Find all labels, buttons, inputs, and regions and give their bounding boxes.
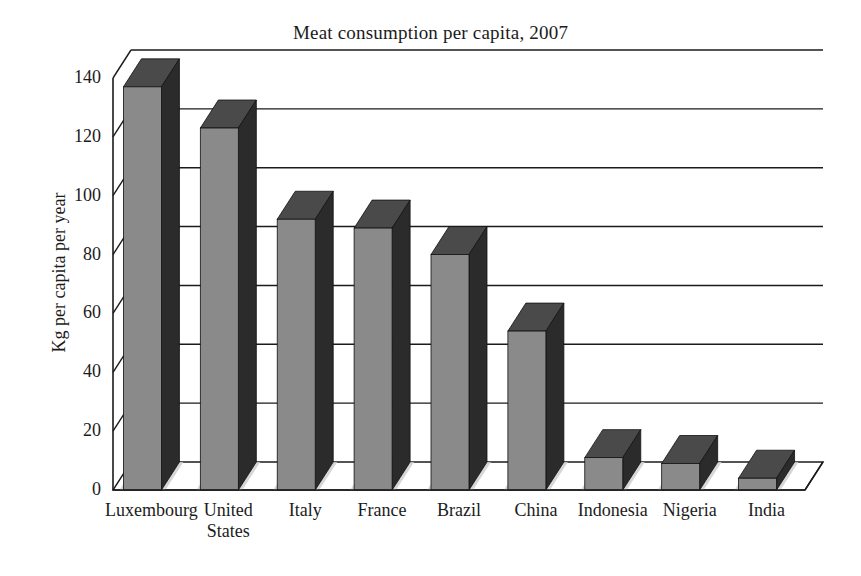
bar-side-face-0 [161, 59, 179, 490]
bar-side-face-3 [392, 200, 410, 490]
bar-3 [350, 200, 414, 490]
bar-front-face-3 [354, 228, 392, 490]
x-category-label-8: India [716, 500, 817, 521]
bar-front-face-8 [739, 478, 777, 490]
chart-container: Meat consumption per capita, 2007 Kg per… [0, 0, 861, 576]
bar-side-face-1 [238, 100, 256, 490]
bar-front-face-0 [123, 87, 161, 490]
y-tick-label-120: 120 [55, 127, 101, 145]
bar-side-face-4 [469, 227, 487, 490]
bar-front-face-1 [200, 128, 238, 490]
bar-4 [427, 227, 491, 490]
y-tick-label-100: 100 [55, 186, 101, 204]
y-tick-label-0: 0 [55, 480, 101, 498]
y-tick-label-80: 80 [55, 245, 101, 263]
bar-front-face-4 [431, 255, 469, 490]
bar-front-face-2 [277, 219, 315, 490]
y-tick-label-140: 140 [55, 68, 101, 86]
bar-front-face-5 [508, 331, 546, 490]
bar-front-face-7 [662, 464, 700, 490]
y-tick-label-60: 60 [55, 303, 101, 321]
gridline-riser-140 [113, 50, 131, 78]
chart-plot-area [0, 0, 861, 576]
bar-5 [504, 303, 568, 490]
bars-group [119, 59, 798, 490]
bar-side-face-2 [315, 191, 333, 490]
y-tick-label-20: 20 [55, 421, 101, 439]
bar-2 [273, 191, 337, 490]
bar-0 [119, 59, 183, 490]
bar-1 [196, 100, 260, 490]
bar-side-face-5 [546, 303, 564, 490]
bar-front-face-6 [585, 458, 623, 490]
y-tick-label-40: 40 [55, 362, 101, 380]
